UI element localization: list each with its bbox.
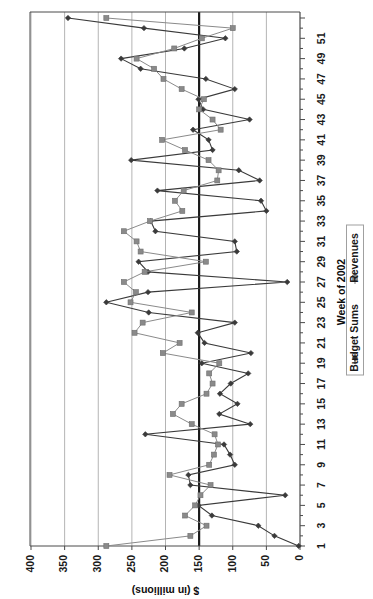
diamond-marker [146, 310, 151, 315]
diamond-marker [283, 493, 288, 498]
square-marker [206, 158, 211, 163]
square-marker [211, 452, 216, 457]
diamond-marker [118, 56, 123, 61]
week-tick-label: 3 [315, 523, 327, 529]
value-tick-label: 150 [192, 555, 204, 573]
week-tick-label: 35 [315, 195, 327, 207]
square-marker [180, 208, 185, 213]
diamond-marker [264, 208, 269, 213]
diamond-marker [182, 46, 187, 51]
value-axis-title: $ (in millions) [132, 585, 200, 597]
square-marker [177, 340, 182, 345]
square-marker [210, 381, 215, 386]
square-marker [172, 198, 177, 203]
square-marker [230, 26, 235, 31]
chart-legend: Budget SumsRevenues [347, 225, 364, 375]
week-tick-label: 19 [315, 357, 327, 369]
diamond-marker [247, 117, 252, 122]
diamond-marker [236, 168, 241, 173]
square-marker [198, 493, 203, 498]
square-marker [170, 412, 175, 417]
value-tick-label: 50 [259, 555, 271, 567]
square-marker [212, 432, 217, 437]
square-marker [207, 371, 212, 376]
square-marker [181, 188, 186, 193]
line-chart: 050100150200250300350400 135791113151719… [0, 0, 373, 599]
week-tick-label: 1 [315, 543, 327, 549]
square-marker [161, 76, 166, 81]
square-marker [215, 442, 220, 447]
square-marker [134, 56, 139, 61]
square-marker [133, 290, 138, 295]
square-marker [199, 36, 204, 41]
square-marker [201, 97, 206, 102]
square-marker [210, 117, 215, 122]
square-marker [207, 462, 212, 467]
week-tick-label: 9 [315, 462, 327, 468]
square-marker [216, 168, 221, 173]
square-marker [217, 361, 222, 366]
square-marker [215, 178, 220, 183]
square-marker [183, 148, 188, 153]
square-marker [204, 523, 209, 528]
square-marker [138, 249, 143, 254]
square-marker [172, 46, 177, 51]
series-line-budget-sums [68, 18, 299, 546]
diamond-marker [257, 178, 262, 183]
diamond-marker [65, 15, 70, 20]
square-marker [140, 320, 145, 325]
week-tick-label: 51 [315, 32, 327, 44]
square-marker [128, 300, 133, 305]
category-axis-title: Week of 2002 [335, 259, 347, 326]
diamond-marker [272, 533, 277, 538]
diamond-marker [235, 401, 240, 406]
square-marker [121, 229, 126, 234]
square-marker [204, 391, 209, 396]
diamond-marker [234, 249, 239, 254]
diamond-marker [246, 371, 251, 376]
square-marker [104, 544, 109, 549]
chart-container: 050100150200250300350400 135791113151719… [0, 0, 373, 599]
value-tick-label: 250 [125, 555, 137, 573]
square-marker [189, 422, 194, 427]
diamond-marker [141, 25, 146, 30]
diamond-marker [248, 350, 253, 355]
week-tick-label: 29 [315, 256, 327, 268]
square-marker [189, 310, 194, 315]
diamond-marker [227, 452, 232, 457]
diamond-marker [188, 482, 193, 487]
square-marker [142, 269, 147, 274]
square-marker [160, 137, 165, 142]
square-marker [148, 219, 153, 224]
square-marker [183, 513, 188, 518]
week-tick-label: 43 [315, 114, 327, 126]
diamond-marker [210, 147, 215, 152]
square-marker [152, 66, 157, 71]
square-marker [208, 483, 213, 488]
week-tick-label: 37 [315, 174, 327, 186]
square-marker [134, 239, 139, 244]
diamond-marker [138, 66, 143, 71]
square-marker [188, 533, 193, 538]
square-marker [104, 16, 109, 21]
week-tick-label: 41 [315, 134, 327, 146]
week-tick-label: 23 [315, 317, 327, 329]
diamond-marker [145, 289, 150, 294]
diamond-marker [153, 229, 158, 234]
week-tick-label: 31 [315, 235, 327, 247]
square-marker [179, 401, 184, 406]
week-tick-label: 13 [315, 418, 327, 430]
square-marker [197, 107, 202, 112]
week-tick-label: 39 [315, 154, 327, 166]
diamond-marker [248, 421, 253, 426]
diamond-marker [129, 157, 134, 162]
value-tick-label: 300 [91, 555, 103, 573]
legend-label: Budget Sums [348, 304, 360, 372]
grid-lines [31, 12, 300, 546]
square-marker [160, 351, 165, 356]
week-tick-label: 5 [315, 502, 327, 508]
diamond-marker [285, 279, 290, 284]
week-tick-label: 21 [315, 337, 327, 349]
diamond-marker [104, 300, 109, 305]
value-axis-tick-labels: 050100150200250300350400 [24, 555, 305, 573]
